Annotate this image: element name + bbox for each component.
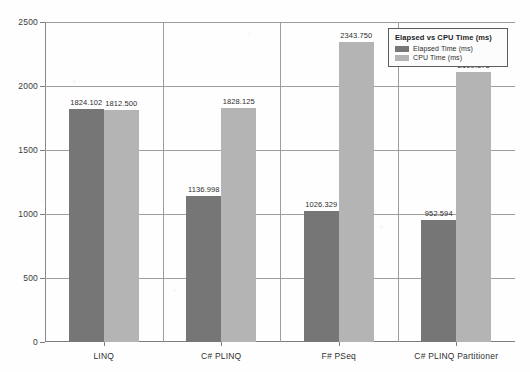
y-axis-tick-label: 1000 — [18, 209, 38, 219]
bar-value-label: 2343.750 — [340, 31, 372, 40]
bar-value-label: 1026.329 — [305, 200, 337, 209]
legend-item[interactable]: Elapsed Time (ms) — [395, 45, 501, 52]
x-axis-tick-mark — [221, 342, 222, 346]
bar-group: 952.5942109.375C# PLINQ Partitioner — [398, 22, 516, 342]
x-axis-category-label: C# PLINQ — [201, 351, 241, 361]
bar-column[interactable]: 2343.750 — [339, 22, 374, 342]
bar[interactable] — [104, 110, 139, 342]
bar[interactable] — [304, 211, 339, 342]
bar-group: 1026.3292343.750F# PSeq — [280, 22, 398, 342]
y-axis-tick-label: 2000 — [18, 81, 38, 91]
bar-value-label: 1136.998 — [188, 185, 220, 194]
bar-column[interactable]: 1136.998 — [186, 22, 221, 342]
bar-column[interactable]: 1812.500 — [104, 22, 139, 342]
chart-legend: Elapsed vs CPU Time (ms) Elapsed Time (m… — [388, 28, 508, 67]
legend-title: Elapsed vs CPU Time (ms) — [395, 33, 501, 42]
x-axis-tick-mark — [456, 342, 457, 346]
y-axis-tick-label: 1500 — [18, 145, 38, 155]
bar[interactable] — [339, 42, 374, 342]
legend-entries: Elapsed Time (ms)CPU Time (ms) — [395, 45, 501, 61]
legend-item-label: Elapsed Time (ms) — [413, 45, 473, 52]
bar-chart: 05001000150020002500 1824.1021812.500LIN… — [0, 0, 530, 372]
plot-area: 05001000150020002500 1824.1021812.500LIN… — [45, 22, 515, 342]
bar-value-label: 1824.102 — [70, 98, 102, 107]
y-axis-tick-label: 0 — [33, 337, 38, 347]
legend-swatch-elapsed — [395, 46, 409, 52]
bar-column[interactable]: 952.594 — [421, 22, 456, 342]
x-axis-category-label: F# PSeq — [322, 351, 356, 361]
x-axis-tick-mark — [104, 342, 105, 346]
bar[interactable] — [69, 109, 104, 342]
y-axis-tick-label: 2500 — [18, 17, 38, 27]
bar[interactable] — [456, 72, 491, 342]
bar[interactable] — [221, 108, 256, 342]
legend-swatch-cpu — [395, 55, 409, 61]
y-axis-tick-mark — [40, 342, 45, 343]
x-axis-category-label: LINQ — [93, 351, 114, 361]
bar-group: 1136.9981828.125C# PLINQ — [163, 22, 281, 342]
bar-column[interactable]: 1824.102 — [69, 22, 104, 342]
bar-group: 1824.1021812.500LINQ — [45, 22, 163, 342]
bar-value-label: 952.594 — [425, 209, 453, 218]
bar-column[interactable]: 1828.125 — [221, 22, 256, 342]
bar-value-label: 1812.500 — [105, 99, 137, 108]
y-axis-tick-label: 500 — [23, 273, 38, 283]
x-axis-category-label: C# PLINQ Partitioner — [414, 351, 498, 361]
bar[interactable] — [421, 220, 456, 342]
bar-column[interactable]: 2109.375 — [456, 22, 491, 342]
legend-item[interactable]: CPU Time (ms) — [395, 54, 501, 61]
bar-column[interactable]: 1026.329 — [304, 22, 339, 342]
bar[interactable] — [186, 196, 221, 342]
x-axis-tick-mark — [339, 342, 340, 346]
bar-value-label: 1828.125 — [223, 97, 255, 106]
legend-item-label: CPU Time (ms) — [413, 54, 462, 61]
